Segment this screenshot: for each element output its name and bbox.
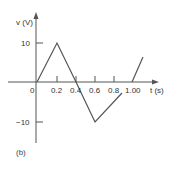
x-tick-label-0.2: 0.2	[51, 86, 63, 95]
y-tick-label-10: 10	[21, 39, 30, 48]
x-axis-label: t (s)	[150, 86, 164, 95]
chart-canvas: v (V) 10 −10 0 0.2 0.4 0.6 0.8 1.00 t (s…	[0, 0, 173, 169]
y-axis-label: v (V)	[16, 18, 33, 27]
waveform-line-tail	[132, 57, 143, 82]
x-axis-arrow-icon	[152, 80, 159, 85]
x-tick-label-1.00: 1.00	[125, 86, 141, 95]
figure-caption: (b)	[16, 148, 26, 157]
y-tick-label-neg10: −10	[16, 118, 30, 127]
y-axis-arrow-icon	[34, 12, 39, 19]
x-tick-label-0: 0	[30, 86, 35, 95]
x-tick-label-0.8: 0.8	[108, 86, 120, 95]
x-tick-label-0.4: 0.4	[70, 86, 82, 95]
x-tick-label-0.6: 0.6	[89, 86, 101, 95]
